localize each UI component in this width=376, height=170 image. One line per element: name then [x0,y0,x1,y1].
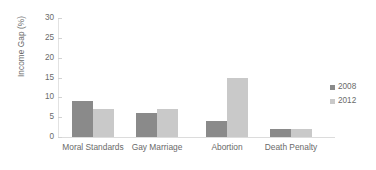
bar-group [270,18,312,137]
legend-item-2012[interactable]: 2012 [330,94,356,108]
legend-swatch-2012 [330,99,335,104]
y-tick-label-5: 5 [49,113,54,121]
y-tick-label-25: 25 [45,34,54,42]
y-tick-label-10: 10 [45,93,54,101]
y-tick-0 [58,137,62,138]
bar-2012-moral-standards [93,109,114,137]
bar-2008-death-penalty [270,129,291,137]
y-tick-label-0: 0 [49,133,54,141]
bar-2012-death-penalty [291,129,312,137]
bar-group [206,18,248,137]
bar-group [136,18,178,137]
legend-label-2008: 2008 [338,83,356,91]
bar-2012-gay-marriage [157,109,178,137]
plot-area [58,18,288,137]
legend-swatch-2008 [330,85,335,90]
x-axis-label-death-penalty: Death Penalty [246,142,336,152]
y-axis-title: Income Gap (%) [17,0,26,112]
bar-2012-abortion [227,78,248,138]
bar-2008-abortion [206,121,227,137]
bar-group [72,18,114,137]
y-tick-label-20: 20 [45,54,54,62]
legend-label-2012: 2012 [338,97,356,105]
bar-chart: Income Gap (%) 051015202530 Moral Standa… [0,0,376,170]
y-tick-label-30: 30 [45,14,54,22]
bar-2008-gay-marriage [136,113,157,137]
y-tick-label-15: 15 [45,74,54,82]
legend: 20082012 [330,80,356,108]
x-axis-line [58,137,335,138]
bar-2008-moral-standards [72,101,93,137]
legend-item-2008[interactable]: 2008 [330,80,356,94]
